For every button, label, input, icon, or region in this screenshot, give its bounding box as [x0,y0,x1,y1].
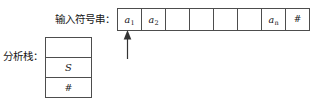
input-symbol: a2 [149,15,159,25]
input-tape-cell-end-marker[interactable]: # [286,9,310,30]
input-tape-cell[interactable]: a1 [118,9,142,30]
input-tape-cell[interactable] [190,9,214,30]
analysis-stack-section: 分析栈： S # [3,37,92,98]
analysis-stack: S # [45,37,92,98]
parsing-diagram: 输入符号串： a1 a2 an # [0,0,327,111]
input-string-label: 输入符号串： [55,8,115,30]
stack-cell-end-marker[interactable]: # [46,78,91,98]
input-tape: a1 a2 an # [117,8,310,31]
stack-cell[interactable] [46,38,91,58]
stack-end-marker: # [65,83,73,93]
input-end-marker: # [294,15,302,24]
input-tape-cell[interactable] [166,9,190,30]
input-symbol: a1 [125,15,135,25]
input-string-section: 输入符号串： a1 a2 an # [55,8,310,31]
up-arrow-icon [121,30,134,59]
stack-symbol: S [65,63,72,73]
input-tape-cell[interactable] [238,9,262,30]
input-symbol: an [269,15,279,25]
input-tape-cell[interactable] [214,9,238,30]
input-tape-cell[interactable]: a2 [142,9,166,30]
analysis-stack-label: 分析栈： [3,46,43,67]
input-tape-cell[interactable]: an [262,9,286,30]
stack-cell[interactable]: S [46,58,91,78]
